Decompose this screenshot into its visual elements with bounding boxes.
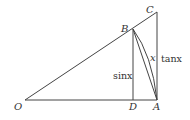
label-d: D bbox=[128, 101, 137, 112]
label-b: B bbox=[120, 23, 128, 34]
label-tanx: tanx bbox=[161, 53, 183, 64]
label-sinx: sinx bbox=[113, 70, 133, 81]
trig-diagram: O D A B C x tanx sinx bbox=[0, 0, 190, 120]
segment-oc bbox=[25, 12, 157, 100]
label-a: A bbox=[152, 101, 160, 112]
chord-ba bbox=[133, 29, 157, 100]
label-c: C bbox=[146, 4, 154, 15]
label-o: O bbox=[14, 101, 22, 112]
label-arc-x: x bbox=[150, 52, 156, 63]
